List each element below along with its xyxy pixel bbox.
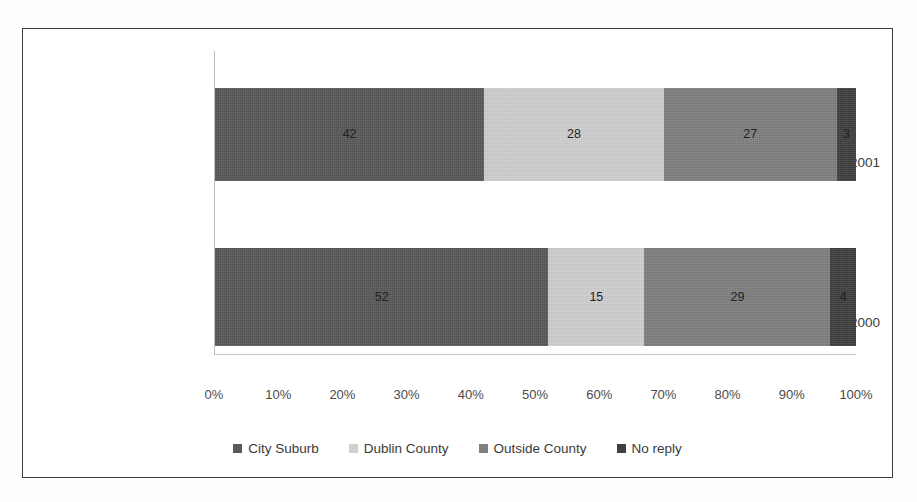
bar-segment-value: 3 <box>843 128 850 141</box>
x-tick-100: 100% <box>839 387 872 402</box>
bar-segment-value: 15 <box>589 291 603 304</box>
legend-label: Outside County <box>494 441 587 456</box>
x-tick-80: 80% <box>715 387 741 402</box>
bar-segment-value: 42 <box>343 128 357 141</box>
legend-item-no-reply[interactable]: No reply <box>617 441 682 456</box>
bar-segment-no-reply[interactable]: 4 <box>830 248 856 346</box>
bar-segment-no-reply[interactable]: 3 <box>837 88 856 181</box>
page-background: Point of Origin 2001 Point of Origin 200… <box>0 0 917 502</box>
bar-segment-city-suburb[interactable]: 52 <box>215 248 548 346</box>
legend-swatch-icon <box>479 444 488 453</box>
legend-swatch-icon <box>617 444 626 453</box>
chart-legend: City SuburbDublin CountyOutside CountyNo… <box>23 441 892 456</box>
x-tick-90: 90% <box>779 387 805 402</box>
x-tick-50: 50% <box>522 387 548 402</box>
legend-swatch-icon <box>233 444 242 453</box>
x-tick-60: 60% <box>586 387 612 402</box>
plot-area: 4228273 5215294 <box>214 51 856 355</box>
legend-item-dublin-county[interactable]: Dublin County <box>349 441 449 456</box>
bar-segment-dublin-county[interactable]: 28 <box>484 88 663 181</box>
legend-swatch-icon <box>349 444 358 453</box>
x-tick-70: 70% <box>650 387 676 402</box>
legend-item-outside-county[interactable]: Outside County <box>479 441 587 456</box>
bar-segment-outside-county[interactable]: 29 <box>644 248 830 346</box>
legend-label: Dublin County <box>364 441 449 456</box>
bar-segment-outside-county[interactable]: 27 <box>664 88 837 181</box>
bar-segment-city-suburb[interactable]: 42 <box>215 88 484 181</box>
bar-segment-value: 4 <box>840 291 847 304</box>
x-tick-30: 30% <box>394 387 420 402</box>
stacked-bar-2001[interactable]: 4228273 <box>215 88 856 181</box>
x-axis-line <box>214 354 856 355</box>
x-tick-10: 10% <box>265 387 291 402</box>
legend-label: City Suburb <box>248 441 319 456</box>
stacked-bar-2000[interactable]: 5215294 <box>215 248 856 346</box>
bar-segment-value: 27 <box>743 128 757 141</box>
x-axis-tick-labels: 0%10%20%30%40%50%60%70%80%90%100% <box>214 387 856 409</box>
bar-segment-value: 52 <box>375 291 389 304</box>
chart-figure-frame: Point of Origin 2001 Point of Origin 200… <box>22 28 893 478</box>
x-tick-20: 20% <box>329 387 355 402</box>
legend-label: No reply <box>632 441 682 456</box>
x-tick-0: 0% <box>205 387 224 402</box>
bar-segment-value: 28 <box>567 128 581 141</box>
bar-segment-value: 29 <box>730 291 744 304</box>
legend-item-city-suburb[interactable]: City Suburb <box>233 441 319 456</box>
bar-segment-dublin-county[interactable]: 15 <box>548 248 644 346</box>
x-tick-40: 40% <box>458 387 484 402</box>
